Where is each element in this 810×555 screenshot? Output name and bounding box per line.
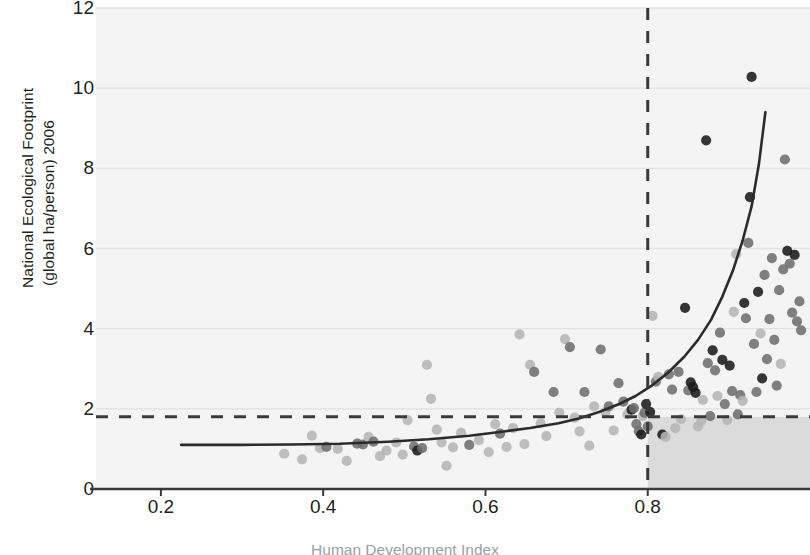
x-axis-tick-label: 0.4 xyxy=(310,497,336,516)
scatter-point xyxy=(398,449,408,459)
scatter-point xyxy=(757,373,767,383)
scatter-point xyxy=(541,431,551,441)
scatter-point xyxy=(755,328,765,338)
scatter-point xyxy=(762,354,772,364)
scatter-point xyxy=(574,426,584,436)
scatter-point xyxy=(698,395,708,405)
scatter-point xyxy=(596,344,606,354)
scatter-point xyxy=(448,442,458,452)
scatter-point xyxy=(743,238,753,248)
scatter-point xyxy=(660,432,670,442)
scatter-point xyxy=(613,378,623,388)
scatter-point xyxy=(746,72,756,82)
scatter-point xyxy=(432,425,442,435)
plot-area xyxy=(0,0,810,555)
x-axis-tick-label: 0.6 xyxy=(472,497,498,516)
scatter-point xyxy=(529,367,539,377)
scatter-point xyxy=(667,384,677,394)
scatter-point xyxy=(584,441,594,451)
scatter-point xyxy=(426,394,436,404)
scatter-point xyxy=(772,380,782,390)
scatter-point xyxy=(701,135,711,145)
scatter-point xyxy=(751,387,761,397)
scatter-point xyxy=(725,360,735,370)
scatter-point xyxy=(636,429,646,439)
scatter-point xyxy=(589,401,599,411)
scatter-point xyxy=(739,298,749,308)
scatter-point xyxy=(519,439,529,449)
scatter-point xyxy=(703,358,713,368)
scatter-point xyxy=(333,444,343,454)
scatter-point xyxy=(673,367,683,377)
scatter-point xyxy=(307,431,317,441)
scatter-point xyxy=(753,287,763,297)
scatter-point xyxy=(749,339,759,349)
scatter-point xyxy=(705,411,715,421)
scatter-point xyxy=(769,335,779,345)
scatter-point xyxy=(767,253,777,263)
scatter-point xyxy=(794,296,804,306)
scatter-point xyxy=(381,445,391,455)
scatter-point xyxy=(297,454,307,464)
scatter-point xyxy=(774,285,784,295)
scatter-point xyxy=(609,425,619,435)
scatter-point xyxy=(565,342,575,352)
scatter-point xyxy=(691,388,701,398)
scatter-point xyxy=(792,316,802,326)
scatter-point xyxy=(490,419,500,429)
scatter-point xyxy=(759,270,769,280)
scatter-point xyxy=(712,391,722,401)
scatter-point xyxy=(776,359,786,369)
scatter-point xyxy=(579,387,589,397)
scatter-point xyxy=(785,259,795,269)
scatter-point xyxy=(422,360,432,370)
x-axis-title: Human Development Index xyxy=(0,541,810,555)
scatter-point xyxy=(780,154,790,164)
scatter-point xyxy=(741,313,751,323)
scatter-point xyxy=(342,456,352,466)
ecological-footprint-hdi-scatter-chart: National Ecological Footprint (global ha… xyxy=(0,0,810,555)
scatter-point xyxy=(514,329,524,339)
scatter-point xyxy=(495,429,505,439)
scatter-point xyxy=(670,423,680,433)
scatter-point xyxy=(738,396,748,406)
scatter-point xyxy=(710,365,720,375)
scatter-point xyxy=(796,325,806,335)
x-axis-tick-label: 0.2 xyxy=(148,497,174,516)
scatter-point xyxy=(501,442,511,452)
scatter-point xyxy=(787,308,797,318)
scatter-point xyxy=(417,443,427,453)
scatter-point xyxy=(474,435,484,445)
scatter-point xyxy=(279,449,289,459)
axis-lines-layer xyxy=(90,489,810,496)
scatter-point xyxy=(484,447,494,457)
x-axis-tick-label: 0.8 xyxy=(635,497,661,516)
scatter-point xyxy=(629,403,639,413)
x-axis-tick-labels: 0.20.40.60.8 xyxy=(0,497,810,527)
scatter-point xyxy=(464,440,474,450)
scatter-point xyxy=(708,345,718,355)
scatter-point xyxy=(715,328,725,338)
scatter-point xyxy=(729,307,739,317)
scatter-point xyxy=(680,303,690,313)
scatter-point xyxy=(764,314,774,324)
scatter-point xyxy=(789,250,799,260)
scatter-point xyxy=(549,387,559,397)
scatter-point xyxy=(720,399,730,409)
scatter-point xyxy=(441,461,451,471)
